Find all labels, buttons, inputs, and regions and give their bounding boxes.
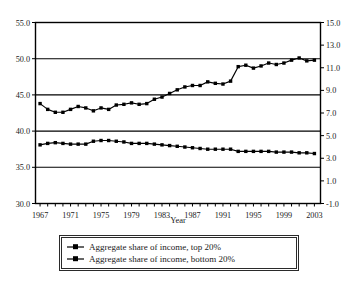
svg-text:7.0: 7.0 bbox=[326, 109, 336, 118]
svg-text:1975: 1975 bbox=[93, 211, 109, 220]
legend-marker-line-square-icon bbox=[66, 254, 85, 264]
svg-text:1995: 1995 bbox=[245, 211, 261, 220]
svg-text:11.0: 11.0 bbox=[326, 64, 340, 73]
svg-text:1979: 1979 bbox=[123, 211, 139, 220]
svg-text:15.0: 15.0 bbox=[326, 19, 340, 28]
svg-text:30.0: 30.0 bbox=[16, 200, 30, 209]
svg-text:3.0: 3.0 bbox=[326, 154, 336, 163]
svg-text:-1.0: -1.0 bbox=[326, 200, 339, 209]
svg-text:1999: 1999 bbox=[276, 211, 292, 220]
chart-legend: Aggregate share of income, top 20% Aggre… bbox=[61, 237, 297, 269]
legend-label-top-20: Aggregate share of income, top 20% bbox=[89, 242, 221, 252]
svg-text:45.0: 45.0 bbox=[16, 91, 30, 100]
y-axis-left-ticks: 30.035.040.045.050.055.0 bbox=[16, 19, 36, 209]
chart-figure: 30.035.040.045.050.055.0 -1.01.03.05.07.… bbox=[0, 0, 364, 283]
svg-text:1967: 1967 bbox=[32, 211, 48, 220]
svg-text:40.0: 40.0 bbox=[16, 127, 30, 136]
svg-text:1.0: 1.0 bbox=[326, 177, 336, 186]
y-axis-right-ticks: -1.01.03.05.07.09.011.013.015.0 bbox=[321, 19, 341, 209]
svg-text:50.0: 50.0 bbox=[16, 55, 30, 64]
svg-text:1991: 1991 bbox=[215, 211, 231, 220]
legend-label-bottom-20: Aggregate share of income, bottom 20% bbox=[89, 254, 235, 264]
plot-frame bbox=[36, 23, 321, 204]
svg-text:1983: 1983 bbox=[154, 211, 170, 220]
svg-text:2003: 2003 bbox=[306, 211, 322, 220]
svg-text:9.0: 9.0 bbox=[326, 86, 336, 95]
svg-text:35.0: 35.0 bbox=[16, 163, 30, 172]
svg-text:1987: 1987 bbox=[184, 211, 200, 220]
data-series-layer bbox=[38, 56, 316, 155]
legend-item-top-20[interactable]: Aggregate share of income, top 20% bbox=[66, 241, 290, 253]
legend-marker-line-square-icon bbox=[66, 242, 85, 252]
svg-text:1971: 1971 bbox=[62, 211, 78, 220]
x-axis-title: Year bbox=[170, 215, 186, 225]
legend-item-bottom-20[interactable]: Aggregate share of income, bottom 20% bbox=[66, 253, 290, 265]
svg-text:5.0: 5.0 bbox=[326, 132, 336, 141]
svg-text:13.0: 13.0 bbox=[326, 41, 340, 50]
svg-text:55.0: 55.0 bbox=[16, 19, 30, 28]
